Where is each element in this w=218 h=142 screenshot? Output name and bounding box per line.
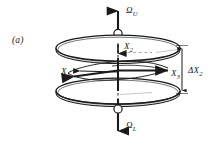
x2-label: X2 — [124, 42, 133, 53]
panel-label: (a) — [12, 36, 24, 46]
omega-lower-symbol: Ω — [126, 120, 133, 130]
omega-lower-subscript: L — [133, 125, 137, 132]
omega-upper-symbol: Ω — [126, 5, 133, 15]
lower-bearing-circle — [114, 105, 122, 113]
x1-label: X1 — [61, 67, 70, 78]
x2-subscript: 2 — [130, 46, 133, 53]
swirl-inner-curve — [112, 65, 166, 70]
omega-upper-subscript: U — [133, 10, 138, 17]
omega-lower-label: ΩL — [126, 121, 137, 132]
x3-label: X3 — [171, 69, 180, 80]
gap-subscript: 2 — [199, 70, 202, 77]
rotating-disks-diagram — [0, 0, 218, 142]
gap-label: ΔX2 — [188, 66, 203, 77]
gap-symbol: ΔX — [188, 65, 199, 75]
omega-upper-label: ΩU — [126, 6, 138, 17]
x1-subscript: 1 — [67, 71, 70, 78]
x3-subscript: 3 — [177, 73, 180, 80]
figure-panel-a: (a) ΩU ΩL X2 X1 X3 ΔX2 — [0, 0, 218, 142]
